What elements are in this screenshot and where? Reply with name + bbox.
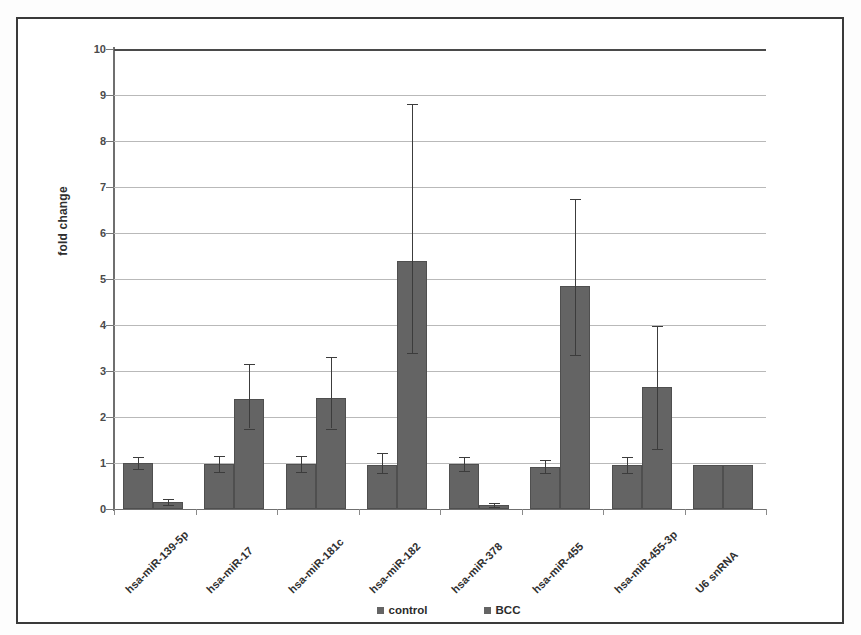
error-cap-lower-control-1 <box>214 472 225 473</box>
x-category-label-4: hsa-miR-378 <box>449 540 505 596</box>
error-cap-lower-control-0 <box>133 469 144 470</box>
error-bar-bcc-3 <box>412 104 413 352</box>
chart-legend: controlBCC <box>18 604 861 616</box>
x-tick-origin <box>114 509 115 515</box>
error-cap-upper-bcc-2 <box>326 357 337 358</box>
y-tick-mark-7 <box>106 187 114 188</box>
bar-group-3 <box>367 49 427 509</box>
error-cap-upper-control-1 <box>214 456 225 457</box>
legend-swatch-control <box>377 607 384 614</box>
error-bar-control-5 <box>545 460 546 473</box>
bar-control-7[interactable] <box>693 465 723 509</box>
y-axis-label: fold change <box>56 161 70 281</box>
x-tick-5 <box>603 509 604 515</box>
y-tick-label-8: 8 <box>80 135 106 147</box>
y-tick-label-6: 6 <box>80 227 106 239</box>
y-tick-mark-1 <box>106 463 114 464</box>
legend-item-control[interactable]: control <box>377 604 428 616</box>
bar-group-1 <box>204 49 264 509</box>
y-tick-label-0: 0 <box>80 503 106 515</box>
x-category-label-0: hsa-miR-139-5p <box>123 528 190 595</box>
y-tick-label-2: 2 <box>80 411 106 423</box>
error-cap-upper-bcc-6 <box>652 326 663 327</box>
y-tick-mark-0 <box>106 509 114 510</box>
error-cap-lower-control-4 <box>459 471 470 472</box>
x-tick-2 <box>359 509 360 515</box>
bar-group-4 <box>449 49 509 509</box>
y-tick-mark-4 <box>106 325 114 326</box>
error-cap-lower-control-6 <box>622 473 633 474</box>
error-cap-lower-control-3 <box>377 473 388 474</box>
error-cap-lower-bcc-5 <box>570 355 581 356</box>
x-category-label-7: U6 snRNA <box>693 548 740 595</box>
error-bar-control-4 <box>464 457 465 471</box>
x-tick-6 <box>685 509 686 515</box>
y-tick-label-7: 7 <box>80 181 106 193</box>
y-tick-mark-8 <box>106 141 114 142</box>
error-cap-upper-control-0 <box>133 457 144 458</box>
x-tick-3 <box>440 509 441 515</box>
error-cap-lower-control-2 <box>296 472 307 473</box>
y-tick-label-1: 1 <box>80 457 106 469</box>
figure-border: fold change 109876543210 hsa-miR-139-5ph… <box>16 17 844 624</box>
bar-group-2 <box>286 49 346 509</box>
legend-label-control: control <box>389 604 428 616</box>
error-bar-control-2 <box>301 456 302 473</box>
y-tick-label-10: 10 <box>80 43 106 55</box>
plot-area <box>114 49 766 509</box>
bar-group-0 <box>123 49 183 509</box>
error-cap-lower-bcc-2 <box>326 429 337 430</box>
error-cap-lower-bcc-0 <box>163 505 174 506</box>
y-tick-label-9: 9 <box>80 89 106 101</box>
y-tick-label-5: 5 <box>80 273 106 285</box>
x-category-label-1: hsa-miR-17 <box>204 544 255 595</box>
y-tick-mark-9 <box>106 95 114 96</box>
error-cap-upper-bcc-3 <box>407 104 418 105</box>
y-tick-mark-5 <box>106 279 114 280</box>
x-category-label-6: hsa-miR-455-3p <box>612 528 679 595</box>
error-cap-upper-control-3 <box>377 453 388 454</box>
error-cap-lower-bcc-1 <box>244 429 255 430</box>
y-tick-label-3: 3 <box>80 365 106 377</box>
y-tick-mark-3 <box>106 371 114 372</box>
error-cap-lower-bcc-3 <box>407 353 418 354</box>
error-bar-control-1 <box>219 456 220 473</box>
figure-canvas: fold change 109876543210 hsa-miR-139-5ph… <box>0 0 861 635</box>
y-tick-mark-2 <box>106 417 114 418</box>
error-cap-upper-control-5 <box>540 460 551 461</box>
error-bar-control-3 <box>382 453 383 473</box>
error-cap-upper-control-6 <box>622 457 633 458</box>
error-cap-upper-bcc-1 <box>244 364 255 365</box>
error-cap-lower-bcc-4 <box>489 507 500 508</box>
error-bar-bcc-2 <box>331 357 332 428</box>
error-cap-upper-control-2 <box>296 456 307 457</box>
bar-group-7 <box>693 49 753 509</box>
x-tick-0 <box>196 509 197 515</box>
error-cap-upper-bcc-5 <box>570 199 581 200</box>
legend-swatch-bcc <box>484 607 491 614</box>
y-axis-tick-labels: 109876543210 <box>76 49 106 509</box>
bar-group-5 <box>530 49 590 509</box>
x-tick-4 <box>522 509 523 515</box>
x-tick-1 <box>277 509 278 515</box>
legend-label-bcc: BCC <box>496 604 521 616</box>
x-category-label-5: hsa-miR-455 <box>530 540 586 596</box>
error-bar-control-6 <box>627 457 628 473</box>
error-bar-bcc-5 <box>575 199 576 355</box>
bar-bcc-7[interactable] <box>723 465 753 509</box>
x-category-label-2: hsa-miR-181c <box>286 536 346 596</box>
error-cap-upper-bcc-4 <box>489 503 500 504</box>
error-bar-bcc-1 <box>249 364 250 428</box>
x-tick-7 <box>766 509 767 515</box>
error-cap-upper-bcc-0 <box>163 499 174 500</box>
y-tick-mark-10 <box>106 49 114 50</box>
error-bar-control-0 <box>138 457 139 470</box>
error-bar-bcc-6 <box>657 326 658 449</box>
error-cap-upper-control-4 <box>459 457 470 458</box>
y-tick-mark-6 <box>106 233 114 234</box>
bar-group-6 <box>612 49 672 509</box>
x-category-label-3: hsa-miR-182 <box>367 540 423 596</box>
error-cap-lower-control-5 <box>540 473 551 474</box>
legend-item-bcc[interactable]: BCC <box>484 604 521 616</box>
y-tick-label-4: 4 <box>80 319 106 331</box>
